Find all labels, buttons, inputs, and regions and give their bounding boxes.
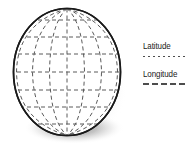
legend-label-longitude: Longitude (143, 68, 189, 80)
legend: Latitude Longitude (143, 40, 189, 96)
globe-svg (0, 0, 132, 147)
legend-entry-latitude: Latitude (143, 40, 189, 58)
legend-entry-longitude: Longitude (143, 68, 189, 86)
globe-illustration (0, 0, 132, 147)
legend-swatch-longitude (143, 83, 185, 86)
legend-swatch-latitude (143, 55, 185, 58)
figure-canvas: Latitude Longitude (0, 0, 189, 147)
legend-label-latitude: Latitude (143, 40, 189, 52)
